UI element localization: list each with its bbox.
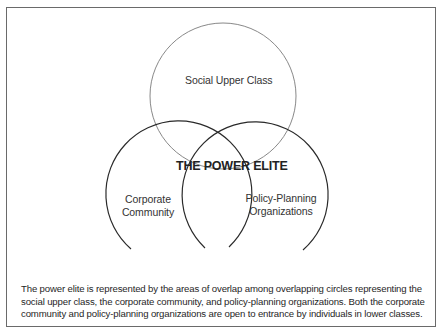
policy-planning-label-line2: Organizations (241, 205, 321, 218)
figure-caption: The power elite is represented by the ar… (21, 283, 426, 321)
policy-planning-label: Policy-Planning Organizations (241, 192, 321, 218)
corporate-community-arc (106, 121, 252, 249)
social-upper-class-label: Social Upper Class (185, 74, 261, 87)
policy-planning-arc (182, 122, 328, 250)
corporate-community-label: Corporate Community (113, 193, 183, 219)
policy-planning-label-line1: Policy-Planning (241, 192, 321, 205)
corporate-community-label-line2: Community (113, 206, 183, 219)
power-elite-title: THE POWER ELITE (176, 159, 288, 173)
social-upper-class-circle (150, 23, 296, 169)
corporate-community-label-line1: Corporate (113, 193, 183, 206)
